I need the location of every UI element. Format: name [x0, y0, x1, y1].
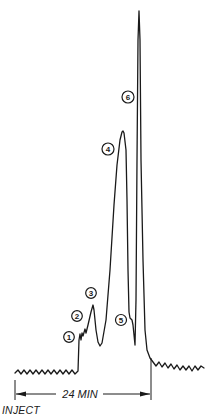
chromatogram: 24 MIN 1 2 3 4 5 6 — [0, 0, 206, 419]
peak-label-1-text: 1 — [67, 333, 72, 342]
peak-label-4: 4 — [102, 143, 114, 155]
arrowhead-left-icon — [16, 392, 26, 397]
peak-label-2: 2 — [72, 311, 83, 322]
peak-label-2-text: 2 — [75, 312, 80, 321]
peak-label-5-text: 5 — [119, 316, 124, 325]
peak-label-1: 1 — [64, 332, 75, 343]
peak-label-3: 3 — [86, 288, 97, 299]
duration-label: 24 MIN — [61, 388, 98, 400]
peak-label-5: 5 — [116, 315, 127, 326]
peak-label-4-text: 4 — [106, 145, 111, 154]
peak-label-6-text: 6 — [126, 93, 131, 102]
peak-label-3-text: 3 — [89, 289, 94, 298]
arrowhead-right-icon — [140, 392, 150, 397]
chromatogram-trace — [15, 11, 204, 374]
inject-label: INJECT — [2, 404, 40, 416]
peak-label-6: 6 — [122, 91, 134, 103]
